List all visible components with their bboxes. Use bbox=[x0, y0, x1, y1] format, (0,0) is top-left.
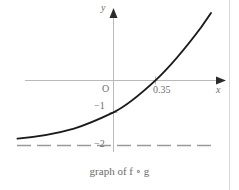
y-axis-label: y bbox=[101, 3, 105, 13]
graph-plot-area bbox=[0, 0, 239, 190]
figure-right-border bbox=[229, 0, 230, 190]
origin-label: O bbox=[102, 84, 109, 94]
figure-container: y x O 0.35 −1 −2 graph of f ∘ g bbox=[0, 0, 239, 190]
y-axis-arrowhead bbox=[110, 8, 118, 18]
x-intercept-label: 0.35 bbox=[153, 85, 171, 95]
function-curve bbox=[18, 13, 212, 139]
x-axis-label: x bbox=[216, 85, 220, 95]
y-minus-one-label: −1 bbox=[94, 101, 105, 111]
asymptote-label: −2 bbox=[94, 139, 105, 149]
figure-caption: graph of f ∘ g bbox=[0, 165, 239, 178]
